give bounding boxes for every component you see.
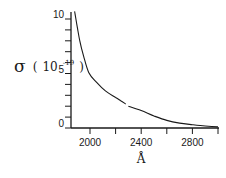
- x-ticks: 200024002800: [79, 128, 218, 148]
- y-axis-label: σ ( 10 -19 ): [14, 50, 84, 76]
- x-tick-label: 2000: [79, 137, 102, 148]
- chart: 0510 200024002800 σ ( 10 -19 ) Å: [0, 0, 226, 178]
- data-curve: [75, 11, 126, 104]
- x-tick-label: 2800: [181, 137, 204, 148]
- data-curve: [128, 106, 218, 127]
- y-tick-label: 0: [58, 118, 64, 129]
- x-tick-label: 2400: [130, 137, 153, 148]
- y-tick-label: 10: [53, 9, 65, 20]
- sigma-symbol: σ: [14, 56, 26, 76]
- x-axis-label: Å: [136, 151, 146, 166]
- data-series: [75, 11, 218, 127]
